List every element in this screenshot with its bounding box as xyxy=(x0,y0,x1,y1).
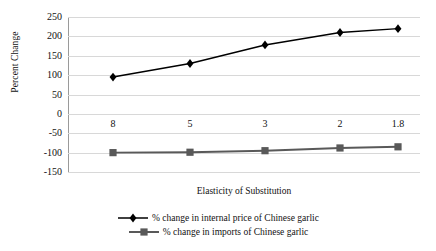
y-axis-tick-label: 200 xyxy=(2,31,62,41)
y-axis-tick-label: 250 xyxy=(2,12,62,22)
y-axis-tick-label: -50 xyxy=(2,128,62,138)
data-point-marker xyxy=(110,73,117,82)
legend-label: % change in imports of Chinese garlic xyxy=(160,226,309,238)
series-line xyxy=(113,147,398,153)
plot-area: 85321.8 xyxy=(68,17,420,172)
data-point-marker xyxy=(186,149,193,156)
chart-legend: % change in internal price of Chinese ga… xyxy=(0,211,436,238)
y-axis-tick-label: -100 xyxy=(2,148,62,158)
y-axis-tick-label: 100 xyxy=(2,70,62,80)
data-point-marker xyxy=(337,28,344,37)
y-axis-tick-label: 0 xyxy=(2,109,62,119)
data-point-marker xyxy=(187,59,194,68)
legend-item: % change in imports of Chinese garlic xyxy=(128,225,309,238)
data-point-marker xyxy=(394,143,401,150)
data-point-marker xyxy=(261,147,268,154)
series-line xyxy=(113,29,398,77)
data-point-marker xyxy=(336,144,343,151)
data-point-marker xyxy=(130,213,137,222)
gridline xyxy=(68,172,420,173)
legend-square-icon xyxy=(128,226,160,238)
y-axis-tick-label: 50 xyxy=(2,90,62,100)
legend-diamond-icon xyxy=(117,212,149,224)
legend-item: % change in internal price of Chinese ga… xyxy=(117,211,319,224)
series-overlay xyxy=(68,17,420,172)
data-point-marker xyxy=(395,24,402,33)
y-axis-tick-label: 150 xyxy=(2,51,62,61)
data-point-marker xyxy=(262,41,269,50)
chart-container: Percent Change 250200150100500-50-100-15… xyxy=(0,0,436,251)
y-axis-tick-label: -150 xyxy=(2,167,62,177)
data-point-marker xyxy=(109,149,116,156)
x-axis-title: Elasticity of Substitution xyxy=(68,186,420,196)
legend-label: % change in internal price of Chinese ga… xyxy=(149,212,319,224)
data-point-marker xyxy=(140,228,147,235)
